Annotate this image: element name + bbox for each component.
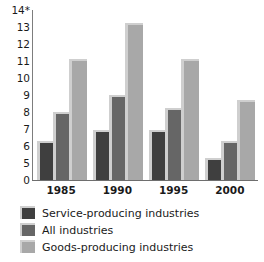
legend-item: Goods-producing industries [22,239,262,256]
legend-swatch-icon [22,242,35,253]
bars-container [33,10,258,180]
y-axis-tick-label: 14* [0,5,30,15]
plot-area: 14*13121110987650 1985199019952000 [0,0,264,198]
chart-legend: Service-producing industriesAll industri… [22,205,262,256]
bar [72,61,87,180]
y-axis: 14*13121110987650 [0,0,30,198]
bar [240,102,255,180]
y-axis-tick-label: 11 [0,56,30,66]
bar-group [202,10,258,180]
x-axis-tick-label: 1990 [89,183,145,197]
y-axis-tick-label: 8 [0,107,30,117]
x-axis-line [32,180,258,181]
legend-label: Goods-producing industries [42,241,193,254]
x-axis-tick-label: 2000 [202,183,258,197]
y-axis-tick-label: 0 [0,175,30,185]
y-axis-tick-label: 6 [0,141,30,151]
bar-group [89,10,145,180]
y-axis-tick-label: 9 [0,90,30,100]
x-axis-tick-label: 1985 [33,183,89,197]
bar [128,25,143,180]
bar-group [146,10,202,180]
y-axis-tick-label: 10 [0,73,30,83]
bar-chart: 14*13121110987650 1985199019952000 Servi… [0,0,264,262]
x-axis: 1985199019952000 [33,183,258,199]
x-axis-tick-label: 1995 [146,183,202,197]
bar [184,61,199,180]
bar-group [33,10,89,180]
legend-item: Service-producing industries [22,205,262,222]
legend-label: All industries [42,224,113,237]
legend-swatch-icon [22,208,35,219]
legend-swatch-icon [22,225,35,236]
y-axis-tick-label: 13 [0,22,30,32]
y-axis-tick-label: 7 [0,124,30,134]
legend-label: Service-producing industries [42,207,199,220]
y-axis-tick-label: 5 [0,158,30,168]
y-axis-tick-label: 12 [0,39,30,49]
legend-item: All industries [22,222,262,239]
